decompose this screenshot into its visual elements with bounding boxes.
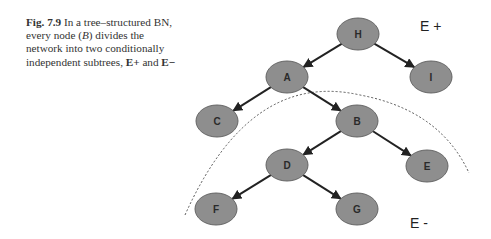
node-C: C [196,105,238,137]
node-label: E [424,161,431,172]
node-A: A [266,61,308,93]
node-label: I [430,72,433,83]
e-plus-label: E + [420,18,441,34]
edge-D-G [301,174,341,199]
edge-H-A [303,42,344,67]
node-I: I [410,61,452,93]
node-B: B [336,105,378,137]
node-E: E [406,150,448,182]
edges [232,42,414,199]
edge-B-D [303,130,343,155]
edge-H-I [372,42,414,67]
edge-A-C [233,86,273,111]
node-label: F [213,204,219,215]
node-label: G [353,204,361,215]
edge-D-F [232,174,273,199]
node-D: D [266,149,308,181]
tree-diagram: HAICBDEFG E + E - [0,0,491,239]
e-minus-label: E - [410,215,428,231]
node-label: B [353,116,360,127]
node-label: C [213,116,220,127]
node-label: D [283,160,290,171]
node-G: G [336,193,378,225]
edge-A-B [301,86,341,111]
nodes: HAICBDEFG [195,18,452,225]
node-label: A [283,72,290,83]
node-H: H [337,18,379,50]
node-F: F [195,193,237,225]
node-label: H [354,29,361,40]
edge-B-E [371,130,411,156]
